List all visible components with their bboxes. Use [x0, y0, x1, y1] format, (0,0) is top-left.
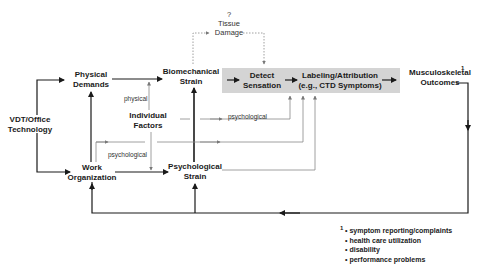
node-label-line: (e.g., CTD Symptoms): [298, 81, 381, 91]
footnote-item: symptom reporting/complaints: [345, 226, 452, 236]
node-label-line: Outcomes: [409, 78, 471, 88]
node-musculoskeletal-outcomes: Musculoskeletal Outcomes: [409, 68, 471, 88]
node-label-line: Individual: [129, 111, 166, 121]
footnote-mark: 1: [340, 224, 343, 234]
node-label-line: VDT/Office: [8, 115, 52, 125]
footnote-list: symptom reporting/complaints health care…: [345, 226, 452, 264]
node-label-line: Labeling/Attribution: [298, 71, 381, 81]
edge-label-psychological-work: psychological: [108, 151, 147, 159]
edge-label-psychological-sensation: psychological: [228, 113, 267, 121]
diagram-canvas: VDT/Office Technology Physical Demands W…: [0, 0, 480, 275]
outcomes-footnote: 1 symptom reporting/complaints health ca…: [345, 226, 452, 264]
node-tissue-damage: ? Tissue Damage: [215, 10, 243, 37]
node-work-organization: Work Organization: [68, 163, 117, 183]
node-label-line: Strain: [168, 172, 222, 182]
node-detect-sensation: Detect Sensation: [243, 71, 281, 91]
node-label-line: Tissue: [215, 19, 243, 28]
node-labeling-attribution: Labeling/Attribution (e.g., CTD Symptoms…: [298, 71, 381, 91]
footnote-item: disability: [345, 245, 452, 255]
node-label-line: Strain: [163, 77, 219, 87]
node-label-line: Technology: [8, 125, 52, 135]
node-label-line: Biomechanical: [163, 67, 219, 77]
node-physical-demands: Physical Demands: [73, 70, 109, 90]
node-label-line: Detect: [243, 71, 281, 81]
node-label-line: Damage: [215, 28, 243, 37]
node-label-line: Psychological: [168, 162, 222, 172]
node-label-line: Organization: [68, 173, 117, 183]
node-label-line: Physical: [73, 70, 109, 80]
node-psychological-strain: Psychological Strain: [168, 162, 222, 182]
node-individual-factors: Individual Factors: [129, 111, 166, 131]
node-vdt-office-technology: VDT/Office Technology: [8, 115, 52, 135]
uncertainty-mark: ?: [215, 10, 243, 19]
node-label-line: Sensation: [243, 81, 281, 91]
node-biomechanical-strain: Biomechanical Strain: [163, 67, 219, 87]
node-label-line: Factors: [129, 121, 166, 131]
footnote-reference-mark: 1: [461, 65, 464, 71]
node-label-line: Work: [68, 163, 117, 173]
edge-label-physical: physical: [124, 95, 147, 103]
footnote-item: health care utilization: [345, 236, 452, 246]
node-label-line: Demands: [73, 80, 109, 90]
footnote-item: performance problems: [345, 255, 452, 265]
